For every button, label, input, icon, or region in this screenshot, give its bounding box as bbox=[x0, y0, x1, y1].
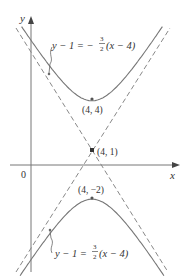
eq-upper-den: 2 bbox=[100, 45, 104, 53]
eq-lower-num: 3 bbox=[93, 243, 97, 251]
hyperbola-diagram: y x 0 (4, 4) (4, 1) (4, −2) y − 1 = − 3 … bbox=[0, 0, 187, 279]
upper-branch bbox=[22, 27, 163, 101]
asymptote-equation-lower: y − 1 = 3 2 (x − 4) bbox=[54, 243, 129, 261]
asymptote-equation-upper: y − 1 = − 3 2 (x − 4) bbox=[51, 35, 136, 53]
y-axis-arrow-icon bbox=[28, 16, 34, 24]
axes bbox=[10, 16, 180, 272]
vertex-lower-label: (4, −2) bbox=[78, 185, 104, 196]
center-label: (4, 1) bbox=[97, 147, 118, 158]
eq-upper-rhs: (x − 4) bbox=[106, 40, 136, 52]
vertex-lower-dot bbox=[90, 196, 93, 199]
y-axis-label: y bbox=[19, 12, 25, 24]
eq-lower-lhs: y − 1 = bbox=[54, 248, 87, 259]
eq-upper-num: 3 bbox=[100, 35, 104, 43]
leaders bbox=[48, 47, 52, 253]
vertex-upper-dot bbox=[90, 97, 93, 100]
lower-leader bbox=[50, 231, 52, 253]
vertex-upper-label: (4, 4) bbox=[82, 105, 103, 116]
x-axis-label: x bbox=[169, 169, 175, 181]
lower-leader-tip bbox=[49, 229, 51, 231]
eq-upper-lhs: y − 1 = − bbox=[51, 40, 94, 51]
origin-label: 0 bbox=[21, 169, 26, 180]
x-axis-arrow-icon bbox=[172, 162, 180, 168]
eq-lower-rhs: (x − 4) bbox=[99, 248, 129, 260]
upper-leader-tip bbox=[48, 73, 50, 75]
eq-lower-den: 2 bbox=[93, 253, 97, 261]
lower-branch bbox=[20, 199, 164, 276]
center-dot bbox=[90, 148, 94, 152]
